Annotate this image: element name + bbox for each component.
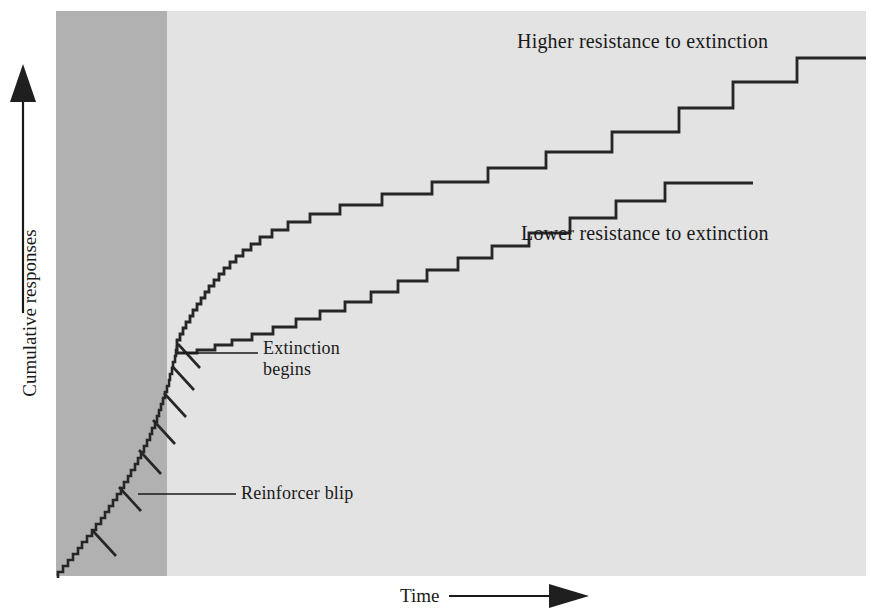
extinction-begins-line1: Extinction xyxy=(263,338,340,359)
x-axis-group: Time xyxy=(400,583,595,609)
extinction-begins-label: Extinction begins xyxy=(263,338,340,380)
reinforcement-phase-background xyxy=(56,11,167,576)
cumulative-record-figure: Cumulative responses Higher resistance t xyxy=(0,0,876,613)
right-arrow-icon xyxy=(447,583,595,609)
x-axis-label-text: Time xyxy=(400,585,439,607)
higher-resistance-label: Higher resistance to extinction xyxy=(517,30,768,53)
lower-resistance-label: Lower resistance to extinction xyxy=(521,222,769,245)
reinforcer-blip-label: Reinforcer blip xyxy=(241,483,353,504)
plot-canvas xyxy=(0,0,876,613)
extinction-begins-line2: begins xyxy=(263,359,340,380)
